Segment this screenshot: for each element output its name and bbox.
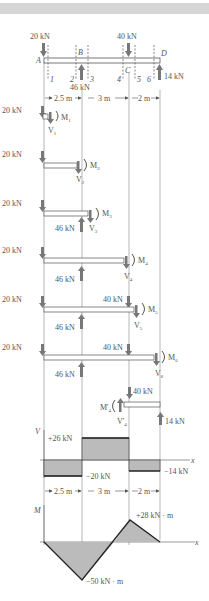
svg-text:20 kN: 20 kN — [2, 246, 22, 255]
svg-text:V1: V1 — [48, 126, 57, 136]
shear-diagram: V x +26 kN −20 kN −14 kN 2.5 m 3 m 2 m — [35, 427, 195, 496]
svg-text:46 kN: 46 kN — [55, 323, 75, 332]
svg-text:M4: M4 — [138, 256, 148, 266]
svg-text:M2: M2 — [90, 161, 100, 171]
svg-text:1: 1 — [50, 75, 54, 84]
fbd-5: 20 kN 40 kN M5 46 kN V5 — [2, 295, 158, 332]
svg-text:x: x — [194, 538, 199, 547]
beam — [44, 58, 160, 63]
svg-text:M: M — [33, 506, 42, 515]
svg-text:2 m: 2 m — [138, 487, 151, 496]
svg-text:V5: V5 — [134, 321, 143, 331]
fbd-3: 20 kN M3 46 kN V3 — [2, 199, 112, 234]
svg-text:40 kN: 40 kN — [133, 387, 153, 396]
svg-text:14 kN: 14 kN — [165, 417, 185, 426]
load-a: 20 kN — [30, 32, 50, 41]
span-2: 3 m — [98, 94, 111, 103]
svg-text:20 kN: 20 kN — [2, 106, 22, 115]
svg-text:V3: V3 — [89, 224, 98, 234]
guide-lines — [44, 62, 160, 580]
span-3: 2 m — [138, 94, 151, 103]
svg-text:M6: M6 — [168, 353, 178, 363]
section-labels: 12 34 56 — [50, 75, 151, 84]
svg-text:V'4: V'4 — [117, 417, 127, 427]
fbd-1: 20 kN M1 V1 — [2, 106, 71, 136]
svg-text:M5: M5 — [148, 305, 158, 315]
svg-text:4: 4 — [117, 75, 121, 84]
svg-text:V2: V2 — [76, 175, 85, 185]
point-b: B — [78, 48, 83, 57]
load-d: 14 kN — [164, 72, 184, 81]
span-1: 2.5 m — [54, 94, 73, 103]
fbd-6: 20 kN 40 kN M6 46 kN V6 — [2, 343, 178, 379]
beam-diagram: 20 kN 40 kN 46 kN 14 kN A B C D 12 34 56… — [0, 0, 209, 601]
svg-text:V6: V6 — [155, 369, 164, 379]
svg-text:M'4: M'4 — [100, 403, 112, 413]
point-c: C — [125, 66, 131, 75]
svg-text:46 kN: 46 kN — [55, 370, 75, 379]
svg-text:5: 5 — [137, 75, 141, 84]
point-a: A — [35, 56, 41, 65]
svg-text:+28 kN · m: +28 kN · m — [136, 511, 174, 520]
svg-text:46 kN: 46 kN — [55, 224, 75, 233]
svg-text:V: V — [35, 427, 41, 436]
svg-text:40 kN: 40 kN — [103, 295, 123, 304]
svg-text:46 kN: 46 kN — [55, 275, 75, 284]
fbd-4: 20 kN M4 46 kN V4 — [2, 246, 148, 284]
svg-text:−20 kN: −20 kN — [86, 472, 111, 481]
moment-diagram: M x +28 kN · m −50 kN · m — [33, 505, 199, 586]
svg-text:40 kN: 40 kN — [103, 343, 123, 352]
svg-text:3 m: 3 m — [98, 487, 111, 496]
point-d: D — [160, 49, 167, 58]
svg-text:20 kN: 20 kN — [2, 199, 22, 208]
svg-text:6: 6 — [147, 75, 151, 84]
svg-text:2.5 m: 2.5 m — [54, 487, 73, 496]
svg-text:−50 kN · m: −50 kN · m — [86, 577, 124, 586]
load-c: 40 kN — [117, 32, 137, 41]
fbd-2: 20 kN M2 V2 — [2, 150, 100, 185]
svg-text:+26 kN: +26 kN — [48, 434, 73, 443]
svg-text:3: 3 — [89, 75, 94, 84]
fbd-7: 40 kN M'4 V'4 14 kN — [100, 387, 185, 427]
svg-text:V4: V4 — [124, 272, 133, 282]
svg-text:x: x — [190, 456, 195, 465]
svg-text:20 kN: 20 kN — [2, 295, 22, 304]
svg-text:M1: M1 — [61, 113, 71, 123]
svg-text:2: 2 — [70, 75, 74, 84]
load-b: 46 kN — [70, 83, 90, 92]
svg-text:M3: M3 — [102, 209, 112, 219]
svg-text:20 kN: 20 kN — [2, 150, 22, 159]
svg-text:−14 kN: −14 kN — [164, 467, 189, 476]
svg-text:20 kN: 20 kN — [2, 343, 22, 352]
